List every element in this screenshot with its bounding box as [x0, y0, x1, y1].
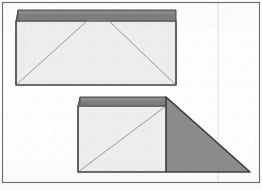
- roof-body-rectangle: [16, 21, 176, 85]
- ridge-band-dark: [78, 97, 166, 106]
- ridge-band-highlight: [81, 99, 165, 101]
- figure-bottom-shed-roof-plan: [78, 97, 250, 172]
- roof-plan-drawing: [0, 0, 262, 190]
- figure-top-hip-roof-plan: [16, 10, 176, 85]
- ridge-band-highlight: [19, 12, 175, 14]
- screenshot-root: [0, 0, 262, 190]
